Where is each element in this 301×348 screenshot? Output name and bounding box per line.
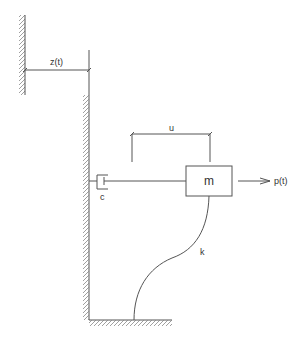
relative-displacement-label: u <box>169 123 174 133</box>
moving-base <box>83 50 172 326</box>
damper-label: c <box>100 192 105 202</box>
base-displacement-dimension: z(t) <box>23 57 91 72</box>
damper: c <box>89 175 186 202</box>
spring-column: k <box>134 196 209 320</box>
mass-block: m <box>186 166 232 196</box>
spring-label: k <box>200 247 205 257</box>
relative-displacement-dimension: u <box>130 123 212 162</box>
mass-label: m <box>204 174 214 188</box>
force-arrow: p(t) <box>238 176 288 186</box>
force-label: p(t) <box>274 176 288 186</box>
dynamics-diagram: z(t) c u m p(t) k <box>0 0 301 348</box>
fixed-wall <box>19 15 25 95</box>
base-displacement-label: z(t) <box>50 57 63 67</box>
